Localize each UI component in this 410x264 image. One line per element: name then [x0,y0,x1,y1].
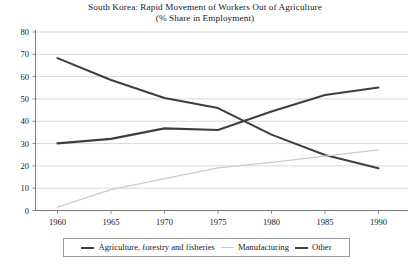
legend-color-swatch [81,247,94,249]
x-axis-tick-label: 1980 [263,217,280,227]
y-axis-tick-label: 50 [20,94,29,104]
y-axis-tick-label: 40 [20,116,29,126]
legend-item[interactable]: Manufacturing [221,243,289,252]
x-axis-tick-label: 1985 [316,217,333,227]
x-axis-tick-label: 1965 [102,217,119,227]
series-line-other [58,88,379,144]
line-chart-plot: 01020304050607080 1960196519701975198019… [0,0,410,264]
y-axis-tick-label: 80 [20,27,29,37]
legend-item[interactable]: Other [295,243,332,252]
chart-legend: Agriculture, forestry and fisheriesManuf… [63,238,350,257]
gridlines [36,32,409,211]
y-axis-tick-label: 0 [25,206,29,216]
series-line-manufacturing [58,150,379,207]
y-axis-tick-labels: 01020304050607080 [20,27,29,216]
legend-item[interactable]: Agriculture, forestry and fisheries [81,243,214,252]
y-axis-tick-label: 70 [20,49,29,59]
data-series-lines [58,58,379,207]
x-axis-tick-label: 1975 [209,217,226,227]
chart-container: South Korea: Rapid Movement of Workers O… [0,0,410,264]
legend-color-swatch [295,247,308,249]
x-axis-tick-label: 1960 [49,217,66,227]
legend-color-swatch [221,247,234,248]
x-axis-tick-label: 1990 [370,217,387,227]
series-line-agriculture-forestry-and-fisheries [58,58,379,168]
y-axis-tick-label: 10 [20,183,29,193]
y-axis-tick-label: 30 [20,139,29,149]
x-axis-tick-label: 1970 [156,217,173,227]
y-axis-tick-label: 20 [20,161,29,171]
legend-item-label: Manufacturing [238,243,289,252]
x-axis-tick-labels: 1960196519701975198019851990 [49,217,387,227]
legend-item-label: Other [312,243,332,252]
y-axis-tick-label: 60 [20,72,29,82]
legend-item-label: Agriculture, forestry and fisheries [98,243,214,252]
x-axis-tick-marks [58,211,379,214]
